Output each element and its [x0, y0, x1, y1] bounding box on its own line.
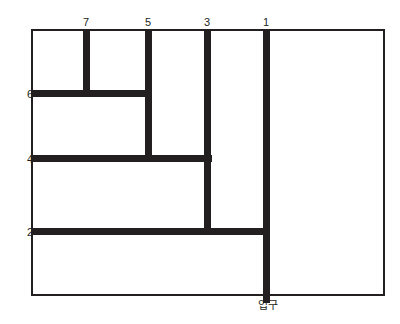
maze-diagram: 1357642 입구: [0, 0, 400, 324]
wall-2: [31, 228, 270, 235]
wall-6-label: 6: [27, 89, 33, 100]
wall-1: [263, 29, 270, 303]
wall-1-label: 1: [263, 17, 269, 28]
wall-3: [204, 29, 211, 235]
wall-2-label: 2: [27, 227, 33, 238]
wall-5-label: 5: [145, 17, 151, 28]
wall-4-label: 4: [27, 154, 33, 165]
wall-6: [31, 90, 152, 97]
wall-7-label: 7: [83, 17, 89, 28]
wall-4: [31, 155, 212, 162]
entrance-label: 입구: [258, 300, 278, 312]
wall-7: [83, 29, 90, 97]
wall-3-label: 3: [204, 17, 210, 28]
